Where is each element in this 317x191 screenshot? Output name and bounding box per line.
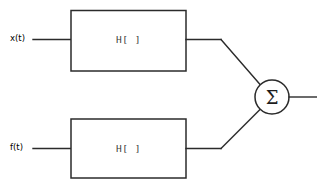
input-label-f: f(t) <box>10 142 36 152</box>
wire-lower-to-sum-diagonal <box>221 109 261 149</box>
wire-upper-to-sum-diagonal <box>221 40 261 86</box>
block-diagram: H[ ] H[ ] Σ x(t) f(t) <box>0 0 317 191</box>
sigma-icon: Σ <box>266 87 279 108</box>
input-label-x: x(t) <box>10 33 36 43</box>
system-block-upper-label: H[ ] <box>116 34 141 45</box>
system-block-lower-label: H[ ] <box>116 143 141 154</box>
diagram-canvas: H[ ] H[ ] Σ <box>0 0 317 191</box>
